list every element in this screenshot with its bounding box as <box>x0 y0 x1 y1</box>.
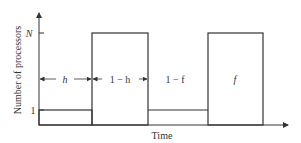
processor-time-diagram: N 1 h 1 − h 1 − f f Time Number of proce… <box>0 0 301 143</box>
tick-label-n: N <box>25 28 34 39</box>
segment-h-box <box>39 110 92 125</box>
tick-label-1: 1 <box>31 105 36 116</box>
segment-label-f: f <box>234 74 238 85</box>
x-axis-label: Time <box>152 130 173 141</box>
segment-label-h: h <box>63 74 68 85</box>
segment-label-1-h: 1 − h <box>110 74 131 85</box>
y-axis-label: Number of processors <box>12 26 23 114</box>
segment-label-1-f: 1 − f <box>166 74 186 85</box>
